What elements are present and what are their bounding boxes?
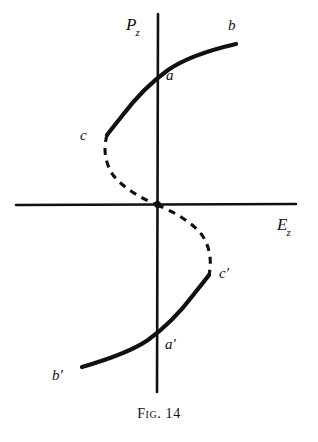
origin-dot [154, 201, 161, 208]
point-label-a-prime: a′ [165, 337, 176, 352]
figure-caption: Fig. 14 [0, 406, 318, 422]
point-label-c-prime: c′ [219, 266, 229, 281]
figure-container: Pz Ez b a c c′ a′ b′ Fig. 14 [0, 0, 318, 442]
curve-upper-dashed-branch [105, 135, 157, 205]
y-axis-label: Pz [126, 16, 141, 36]
point-label-a: a [166, 68, 174, 83]
point-label-b: b [228, 18, 236, 33]
curve-upper-solid-branch [107, 44, 236, 135]
x-axis-label: Ez [277, 216, 292, 236]
x-axis-label-subscript: z [286, 226, 290, 238]
y-axis-label-subscript: z [135, 26, 139, 38]
point-label-c: c [80, 128, 87, 143]
curve-lower-solid-branch [82, 275, 209, 367]
hysteresis-curve-diagram [0, 0, 318, 442]
point-label-b-prime: b′ [52, 368, 63, 383]
curve-lower-dashed-branch [157, 205, 210, 275]
